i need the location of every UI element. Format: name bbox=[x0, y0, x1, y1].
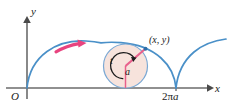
angle-t-label: t bbox=[110, 56, 113, 66]
tick-label-a: a bbox=[173, 90, 179, 102]
radius-a-label: a bbox=[125, 67, 130, 77]
origin-label: O bbox=[11, 91, 19, 102]
y-axis-label: y bbox=[31, 6, 36, 17]
x-axis-tick-label-2pia: 2πa bbox=[162, 91, 179, 102]
x-axis-arrowhead bbox=[207, 84, 214, 92]
cycloid-figure: y x O t a (x, y) 2πa bbox=[0, 0, 231, 109]
tracing-point-label: (x, y) bbox=[149, 35, 170, 45]
x-axis-label: x bbox=[215, 83, 220, 94]
tracing-point-marker bbox=[144, 47, 148, 51]
cycloid-arch-first bbox=[27, 41, 176, 88]
y-axis-arrowhead bbox=[23, 16, 31, 23]
cycloid-arch-second-partial bbox=[176, 39, 226, 88]
